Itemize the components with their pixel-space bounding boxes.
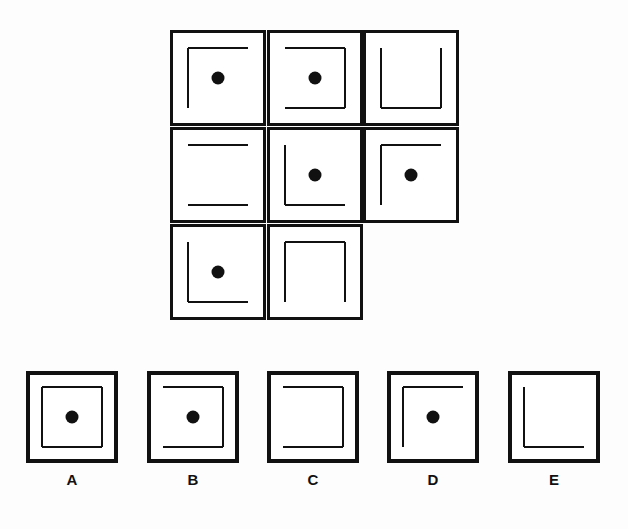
option-e[interactable] <box>508 371 600 463</box>
option-label-b: B <box>147 471 239 488</box>
grid-cell-1-0 <box>170 127 266 223</box>
dot-icon <box>308 72 321 85</box>
option-label-d: D <box>387 471 479 488</box>
dot-icon <box>308 169 321 182</box>
grid-cell-0-0 <box>170 30 266 126</box>
option-c[interactable] <box>267 371 359 463</box>
option-label-e: E <box>508 471 600 488</box>
option-a[interactable] <box>26 371 118 463</box>
grid-cell-0-1 <box>267 30 363 126</box>
dot-icon <box>427 411 440 424</box>
option-label-c: C <box>267 471 359 488</box>
dot-icon <box>187 411 200 424</box>
grid-cell-0-2 <box>363 30 459 126</box>
grid-cell-1-2 <box>363 127 459 223</box>
option-b[interactable] <box>147 371 239 463</box>
option-label-a: A <box>26 471 118 488</box>
dot-icon <box>212 72 225 85</box>
dot-icon <box>212 266 225 279</box>
grid-cell-2-0 <box>170 224 266 320</box>
dot-icon <box>66 411 79 424</box>
option-d[interactable] <box>387 371 479 463</box>
puzzle-grid <box>170 30 460 321</box>
grid-cell-2-1 <box>267 224 363 320</box>
grid-cell-1-1 <box>267 127 363 223</box>
dot-icon <box>405 169 418 182</box>
